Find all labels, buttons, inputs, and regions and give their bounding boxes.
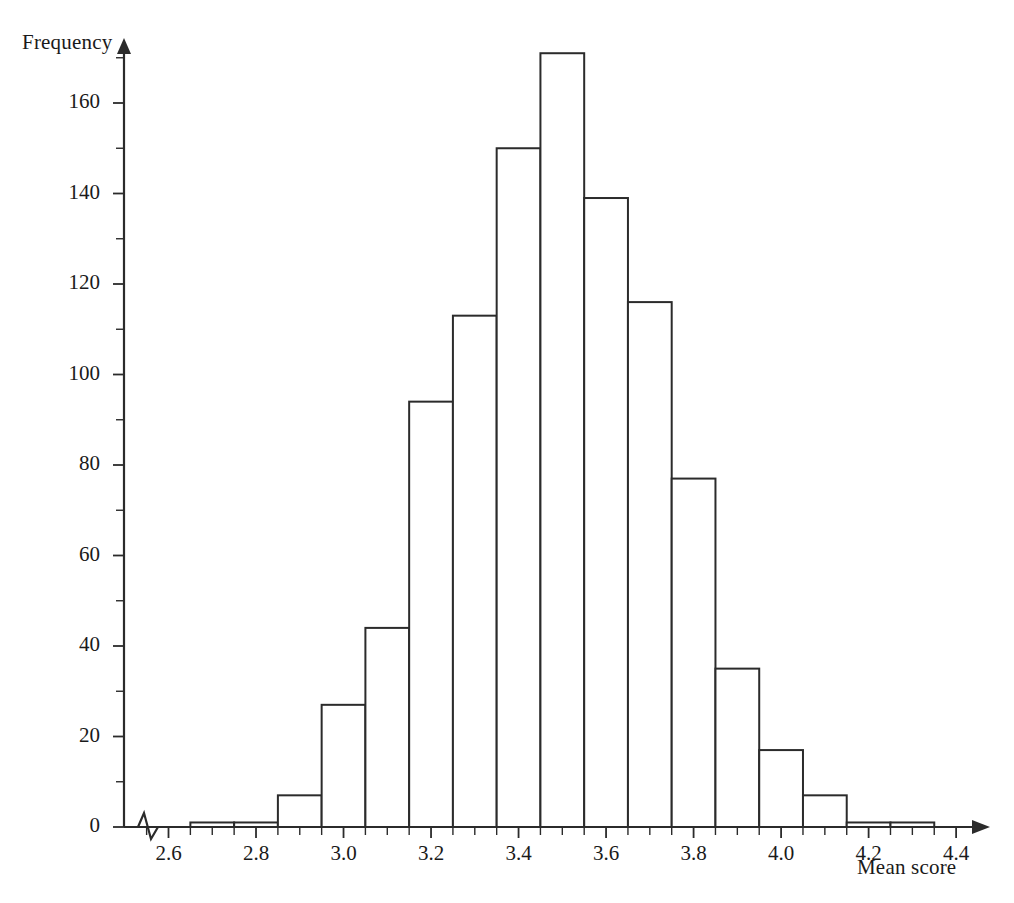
histogram-bar xyxy=(672,479,716,827)
x-axis-arrowhead xyxy=(972,820,990,834)
histogram-bars xyxy=(190,53,934,827)
histogram-bar xyxy=(453,316,497,827)
histogram-bar xyxy=(365,628,409,827)
histogram-bar xyxy=(322,705,366,827)
histogram-bar xyxy=(190,822,234,827)
histogram-bar xyxy=(540,53,584,827)
y-tick-label: 80 xyxy=(40,451,100,476)
histogram-bar xyxy=(234,822,278,827)
x-tick-label: 2.8 xyxy=(226,841,286,866)
y-axis-title: Frequency xyxy=(22,30,112,55)
histogram-plot-area xyxy=(0,0,1014,903)
histogram-bar xyxy=(497,148,541,827)
x-tick-label: 3.8 xyxy=(664,841,724,866)
histogram-bar xyxy=(409,402,453,827)
x-tick-label: 4.4 xyxy=(926,841,986,866)
y-tick-label: 140 xyxy=(40,180,100,205)
y-tick-label: 20 xyxy=(40,723,100,748)
histogram-bar xyxy=(584,198,628,827)
x-tick-label: 3.4 xyxy=(489,841,549,866)
histogram-bar xyxy=(803,795,847,827)
y-tick-label: 40 xyxy=(40,632,100,657)
histogram-bar xyxy=(847,822,891,827)
x-tick-label: 4.2 xyxy=(839,841,899,866)
y-tick-label: 60 xyxy=(40,542,100,567)
y-tick-label: 100 xyxy=(40,361,100,386)
y-axis-arrowhead xyxy=(117,38,131,54)
histogram-bar xyxy=(715,669,759,827)
histogram-bar xyxy=(759,750,803,827)
histogram-figure: Frequency Mean score 0204060801001201401… xyxy=(0,0,1014,903)
y-tick-label: 0 xyxy=(40,813,100,838)
histogram-bar xyxy=(890,822,934,827)
y-tick-label: 120 xyxy=(40,270,100,295)
x-tick-label: 3.2 xyxy=(401,841,461,866)
x-tick-label: 2.6 xyxy=(139,841,199,866)
histogram-bar xyxy=(278,795,322,827)
x-tick-label: 3.0 xyxy=(314,841,374,866)
x-tick-label: 3.6 xyxy=(576,841,636,866)
x-tick-label: 4.0 xyxy=(751,841,811,866)
histogram-bar xyxy=(628,302,672,827)
y-tick-label: 160 xyxy=(40,89,100,114)
